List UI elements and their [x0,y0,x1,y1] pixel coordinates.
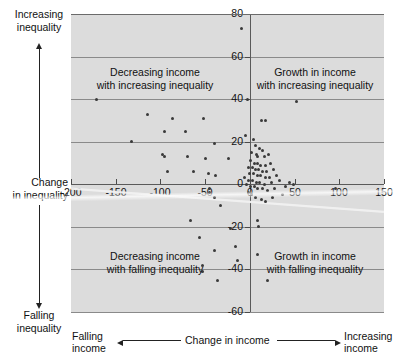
y-axis-top-line2: inequality [8,21,70,34]
data-point [259,164,262,167]
data-point [263,183,266,186]
x-axis-tick [116,179,117,184]
x-axis-tick [205,179,206,184]
quadrant-label-top-left: Decreasing income with increasing inequa… [80,66,230,91]
scan-artifact-band-top [0,0,408,8]
quadrant-top-right-line2: with increasing inequality [250,79,380,92]
data-point [163,130,166,133]
data-point [219,204,222,207]
data-point [272,168,275,171]
x-axis-tick [71,179,72,184]
y-axis-bottom-annotation: Falling inequality [8,309,70,334]
x-axis-left-line2: income [72,342,106,354]
data-point [186,155,189,158]
y-axis-tick-label: 60 [213,50,243,62]
x-axis-tick-label: 150 [364,186,404,198]
data-point [254,196,257,199]
data-point [261,187,264,190]
data-point [269,162,272,165]
y-axis-top-line1: Increasing [8,8,70,21]
data-point [253,185,256,188]
x-axis-right-annotation: Increasing income [344,330,392,354]
data-point [234,245,237,248]
data-point [247,166,250,169]
data-point [264,119,267,122]
quadrant-bottom-right-line2: with falling inequality [250,263,380,276]
x-axis-right-line1: Increasing [344,330,392,342]
data-point [256,174,259,177]
data-point [192,170,195,173]
x-axis-tick [295,179,296,184]
data-point [261,149,264,152]
data-point [250,151,253,154]
data-point [261,170,264,173]
data-point [260,119,263,122]
chart-root: -200-150-100-50050100150806040200-20-40-… [0,0,408,360]
data-point [246,98,249,101]
data-point [258,181,261,184]
y-axis-title-line1: Change [0,176,68,189]
x-axis-tick [339,179,340,184]
y-axis-bottom-line2: inequality [8,322,70,335]
data-point [260,198,263,201]
data-point [270,181,273,184]
data-point [216,279,219,282]
x-axis-tick [384,179,385,184]
x-axis-right-arrow-shaft [277,340,335,341]
data-point [95,98,98,101]
data-point [266,279,269,282]
data-point [247,191,250,194]
x-axis-right-line2: income [344,342,392,354]
data-point [204,157,207,160]
y-axis-tick-label: 0 [213,177,243,189]
y-axis-bottom-line1: Falling [8,309,70,322]
data-point [244,134,247,137]
y-axis-title: Change in inequality [0,176,68,201]
y-axis-up-arrow-shaft [39,48,40,178]
y-axis-tick-label: 20 [213,135,243,147]
y-axis-tick [245,57,250,58]
data-point [288,181,291,184]
y-axis-down-arrow-shaft [39,205,40,303]
x-axis-tick [160,179,161,184]
x-axis-left-arrow-shaft [123,340,181,341]
data-point [251,179,254,182]
y-axis-tick [245,312,250,313]
x-axis-title: Change in income [185,334,270,346]
data-point [184,130,187,133]
data-point [292,183,295,186]
quadrant-label-bottom-right: Growth in income with falling inequality [250,250,380,275]
data-point [271,196,274,199]
data-point [252,138,255,141]
y-axis-tick-label: -20 [213,220,243,232]
x-axis-tick-label: 100 [319,186,359,198]
x-axis-left-line1: Falling [72,330,106,342]
data-point [213,196,216,199]
y-axis-tick [245,142,250,143]
y-axis-tick-label: -60 [213,305,243,317]
quadrant-label-top-right: Growth in income with increasing inequal… [250,66,380,91]
data-point [254,168,257,171]
quadrant-bottom-left-line2: with falling inequality [80,263,230,276]
data-point [256,162,259,165]
y-axis-tick-label: 40 [213,92,243,104]
y-axis-tick-label: 80 [213,7,243,19]
quadrant-bottom-left-line1: Decreasing income [80,250,230,263]
quadrant-top-left-line1: Decreasing income [80,66,230,79]
quadrant-bottom-right-line1: Growth in income [250,250,380,263]
data-point [278,179,281,182]
x-axis-tick-label: -150 [96,186,136,198]
y-axis-tick [245,14,250,15]
y-axis-tick [245,227,250,228]
y-axis-top-annotation: Increasing inequality [8,8,70,33]
quadrant-label-bottom-left: Decreasing income with falling inequalit… [80,250,230,275]
data-point [146,113,149,116]
quadrant-top-right-line1: Growth in income [250,66,380,79]
data-point [245,183,248,186]
arrow-right-icon [335,340,341,346]
x-axis-tick-label: -100 [140,186,180,198]
x-axis-tick-label: 50 [275,186,315,198]
data-point [255,181,258,184]
data-point [202,117,205,120]
data-point [263,155,266,158]
